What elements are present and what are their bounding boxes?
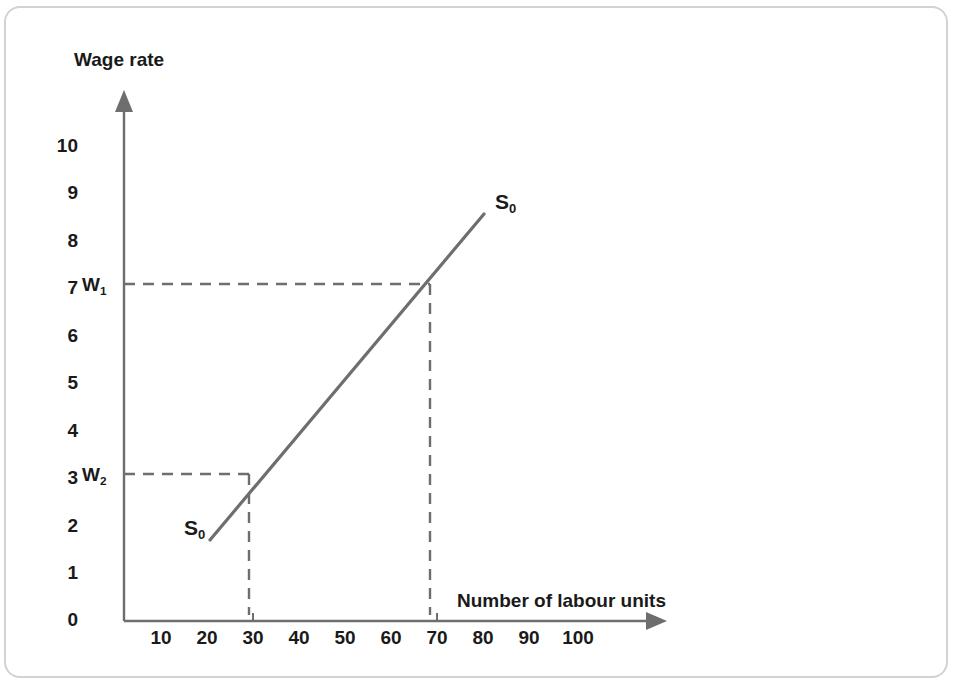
curve-label-s0-lower-subscript: 0 <box>198 527 205 542</box>
chart-svg <box>6 8 950 680</box>
x-tick-label-80: 80 <box>460 627 506 649</box>
y-tick-label-7: 7 <box>44 277 78 299</box>
x-axis-arrowhead <box>646 612 667 630</box>
figure-card: Wage rate Number of labour units 10 9 8 … <box>4 6 948 678</box>
y-axis-arrowhead <box>115 90 133 112</box>
x-axis-title: Number of labour units <box>457 590 666 612</box>
x-tick-label-70: 70 <box>414 627 460 649</box>
wage-marker-w2-text: W <box>82 464 100 485</box>
curve-label-s0-upper-text: S <box>495 190 509 213</box>
wage-marker-w1-text: W <box>82 274 100 295</box>
y-tick-label-3: 3 <box>44 467 78 489</box>
x-tick-label-30: 30 <box>230 627 276 649</box>
x-tick-label-100: 100 <box>555 627 601 649</box>
wage-marker-w2-subscript: 2 <box>100 474 107 487</box>
x-tick-label-40: 40 <box>276 627 322 649</box>
curve-label-s0-lower-text: S <box>184 516 198 539</box>
wage-marker-w1-subscript: 1 <box>100 284 107 297</box>
y-tick-label-2: 2 <box>44 515 78 537</box>
curve-label-s0-lower: S0 <box>184 516 205 540</box>
x-tick-label-20: 20 <box>184 627 230 649</box>
curve-label-s0-upper: S0 <box>495 190 516 214</box>
y-tick-label-5: 5 <box>44 372 78 394</box>
y-tick-label-4: 4 <box>44 420 78 442</box>
y-tick-label-10: 10 <box>44 135 78 157</box>
chart-plot-area: Wage rate Number of labour units 10 9 8 … <box>6 8 950 680</box>
y-tick-label-9: 9 <box>44 182 78 204</box>
y-tick-label-1: 1 <box>44 562 78 584</box>
wage-marker-w2: W2 <box>82 464 106 486</box>
x-tick-label-90: 90 <box>506 627 552 649</box>
x-tick-label-60: 60 <box>368 627 414 649</box>
y-tick-label-6: 6 <box>44 325 78 347</box>
y-tick-label-0: 0 <box>44 609 78 631</box>
wage-marker-w1: W1 <box>82 274 106 296</box>
supply-curve-s0 <box>210 214 484 540</box>
curve-label-s0-upper-subscript: 0 <box>509 201 516 216</box>
x-tick-label-50: 50 <box>322 627 368 649</box>
y-axis-title: Wage rate <box>74 49 164 71</box>
x-tick-label-10: 10 <box>138 627 184 649</box>
y-tick-label-8: 8 <box>44 230 78 252</box>
